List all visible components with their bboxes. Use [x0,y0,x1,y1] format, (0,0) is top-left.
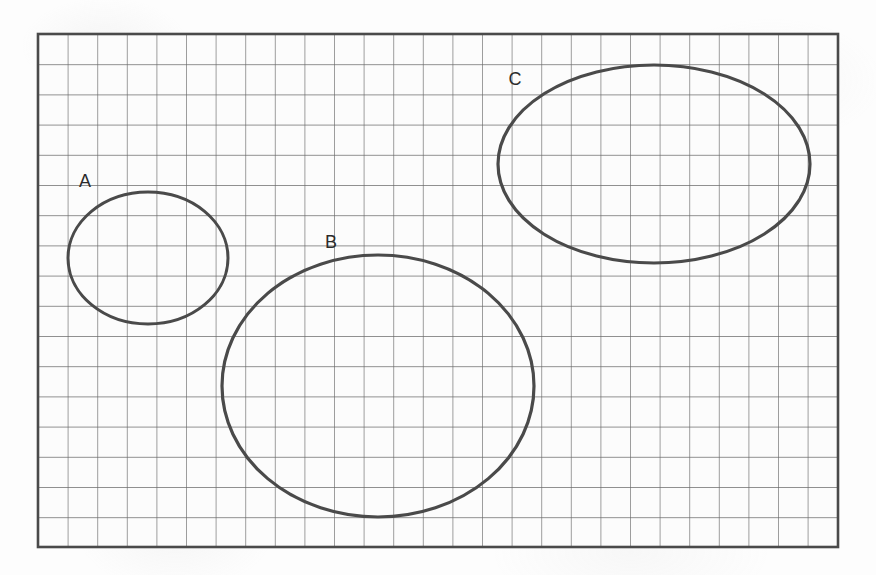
grid-ellipse-figure: ABC [0,0,876,575]
ellipse-label-b: B [325,232,337,252]
ellipse-label-a: A [79,171,91,191]
grid-lines [38,34,838,547]
figure-page: ABC [0,0,876,575]
ellipse-label-c: C [509,69,522,89]
